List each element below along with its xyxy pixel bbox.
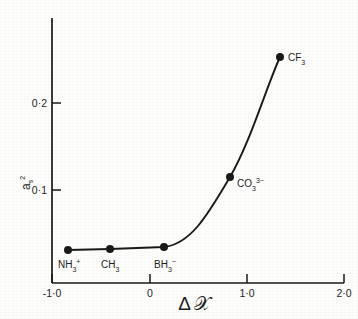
y-tick-label-0.2: 0·2 [32, 97, 47, 109]
data-point-co3 [226, 173, 234, 181]
x-tick-label--1.0: -1·0 [43, 287, 62, 299]
label-ch3-sub: 3 [115, 266, 119, 273]
scatter-line-chart: 0·2 0·1 -1·0 0 1·0 2·0 as2 Δ𝒳 NH3+ [0, 0, 358, 319]
data-point-bh3 [160, 243, 168, 251]
x-tick-label-0: 0 [147, 287, 153, 299]
y-tick-label-0.1: 0·1 [32, 184, 47, 196]
y-axis-title-sub: s [27, 179, 34, 183]
data-point-nh3 [64, 246, 72, 254]
label-nh3-sup: + [76, 258, 80, 265]
svg-text:Δ𝒳: Δ𝒳 [178, 293, 213, 314]
label-cf3-sub: 3 [301, 59, 305, 66]
label-ch3-base: CH [101, 259, 115, 270]
y-axis-title-sup: 2 [19, 176, 26, 180]
label-nh3-base: NH [58, 259, 72, 270]
label-cf3-base: CF [288, 52, 301, 63]
label-bh3-base: BH [154, 259, 168, 270]
data-point-cf3 [276, 53, 284, 61]
x-axis-title: Δ𝒳 [178, 293, 213, 314]
x-tick-label-2.0: 2·0 [336, 287, 351, 299]
label-co3-base: CO [237, 178, 252, 189]
label-nh3-sub: 3 [72, 266, 76, 273]
x-axis-title-delta: Δ [178, 293, 191, 314]
x-tick-label-1.0: 1·0 [239, 287, 254, 299]
label-co3-sup: 3− [256, 177, 264, 184]
chart-background [0, 0, 358, 319]
data-point-ch3 [106, 245, 114, 253]
label-bh3-sub: 3 [168, 266, 172, 273]
label-co3-sub: 3 [252, 185, 256, 192]
figure-page: 0·2 0·1 -1·0 0 1·0 2·0 as2 Δ𝒳 NH3+ [0, 0, 358, 319]
label-bh3-sup: − [172, 258, 176, 265]
